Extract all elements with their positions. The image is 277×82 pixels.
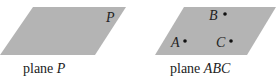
plane-p-label: P <box>105 10 115 25</box>
caption-name: P <box>57 61 66 76</box>
point-b-dot <box>223 12 227 16</box>
point-a-label: A <box>170 35 180 50</box>
point-c-dot <box>229 39 233 43</box>
plane-abc-caption: plane ABC <box>170 61 230 77</box>
point-a-dot <box>183 39 187 43</box>
caption-prefix: plane <box>170 61 204 76</box>
caption-prefix: plane <box>23 61 57 76</box>
point-c-label: C <box>216 35 226 50</box>
caption-name: ABC <box>204 61 230 76</box>
plane-p-caption: plane P <box>23 61 65 77</box>
point-b-label: B <box>209 8 218 23</box>
